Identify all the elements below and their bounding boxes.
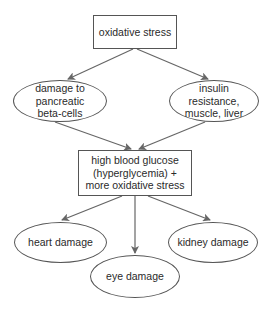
- node-hyperglycemia: high blood glucose (hyperglycemia) + mor…: [78, 150, 192, 196]
- node-label: kidney damage: [177, 236, 248, 249]
- node-label-line: muscle, liver: [185, 107, 243, 120]
- arrow-insulin-to-hyperglycemia: [139, 122, 205, 149]
- node-label-line: insulin: [185, 82, 243, 95]
- node-beta-cell-damage: damage to pancreatic beta-cells: [13, 80, 107, 122]
- node-label-line: high blood glucose: [85, 154, 184, 167]
- node-label-line: beta-cells: [35, 107, 85, 120]
- node-heart-damage: heart damage: [14, 222, 107, 263]
- arrow-betacells-to-hyperglycemia: [55, 122, 131, 149]
- arrow-oxidative-to-insulin: [137, 49, 208, 79]
- node-label-line: resistance,: [185, 95, 243, 108]
- arrow-hyperglycemia-to-heart: [62, 196, 122, 220]
- node-label-line: more oxidative stress: [85, 179, 184, 192]
- node-oxidative-stress: oxidative stress: [93, 15, 177, 49]
- arrow-hyperglycemia-to-kidney: [148, 196, 210, 220]
- node-label-line: (hyperglycemia) +: [85, 167, 184, 180]
- node-label: heart damage: [28, 236, 93, 249]
- node-kidney-damage: kidney damage: [168, 222, 258, 263]
- node-label-line: pancreatic: [35, 95, 85, 108]
- node-label: eye damage: [106, 270, 164, 283]
- node-eye-damage: eye damage: [90, 255, 180, 298]
- node-insulin-resistance: insulin resistance, muscle, liver: [169, 80, 259, 122]
- arrow-oxidative-to-betacells: [68, 49, 133, 79]
- node-label: oxidative stress: [99, 26, 171, 39]
- node-label-line: damage to: [35, 82, 85, 95]
